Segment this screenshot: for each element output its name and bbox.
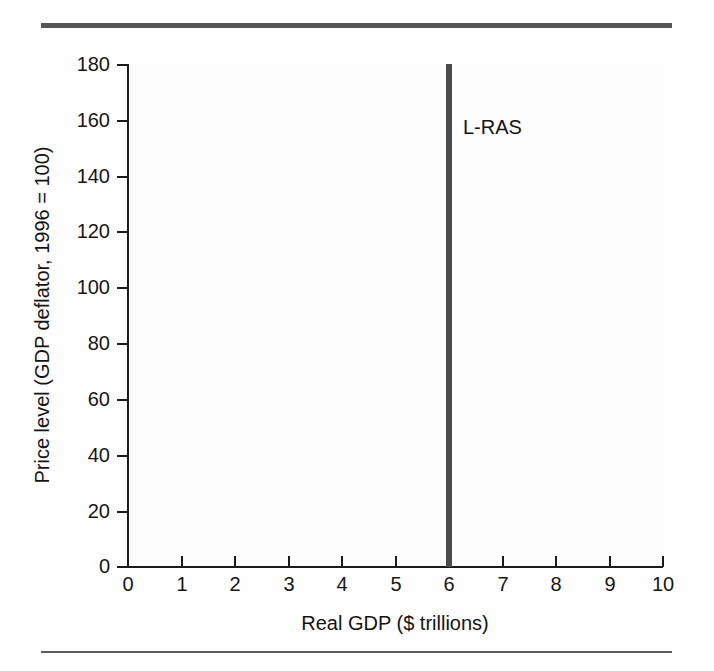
- y-axis-tick-180: [117, 64, 128, 66]
- lras-label: L-RAS: [463, 116, 522, 139]
- x-axis-tick-2: [234, 556, 236, 567]
- x-axis-tick-10: [662, 556, 664, 567]
- x-axis-label-1: 1: [176, 573, 187, 596]
- x-axis-label-0: 0: [122, 573, 133, 596]
- x-axis-label-5: 5: [390, 573, 401, 596]
- y-axis-label-140: 140: [77, 165, 110, 188]
- chart-figure: 180 160 140 120 100 80 60 40 20 0 0 1 2 …: [0, 0, 714, 671]
- y-axis-label-80: 80: [88, 332, 110, 355]
- x-axis-tick-1: [181, 556, 183, 567]
- y-axis-label-120: 120: [77, 220, 110, 243]
- y-axis-tick-140: [117, 176, 128, 178]
- y-axis-line: [127, 64, 129, 568]
- y-axis-tick-120: [117, 231, 128, 233]
- x-axis-label-10: 10: [652, 573, 674, 596]
- x-axis-tick-0: [127, 556, 129, 567]
- lras-curve: [446, 64, 452, 567]
- y-axis-label-40: 40: [88, 444, 110, 467]
- y-axis-tick-80: [117, 343, 128, 345]
- x-axis-label-4: 4: [336, 573, 347, 596]
- divider-bottom-rule: [41, 651, 672, 653]
- y-axis-label-60: 60: [88, 388, 110, 411]
- y-axis-label-100: 100: [77, 276, 110, 299]
- x-axis-tick-7: [502, 556, 504, 567]
- x-axis-tick-4: [341, 556, 343, 567]
- y-axis-label-20: 20: [88, 500, 110, 523]
- x-axis-label-9: 9: [604, 573, 615, 596]
- x-axis-title: Real GDP ($ trillions): [301, 612, 488, 635]
- y-axis-tick-40: [117, 455, 128, 457]
- y-axis-tick-20: [117, 511, 128, 513]
- y-axis-label-180: 180: [77, 53, 110, 76]
- y-axis-label-160: 160: [77, 109, 110, 132]
- x-axis-tick-3: [288, 556, 290, 567]
- y-axis-tick-100: [117, 287, 128, 289]
- x-axis-label-8: 8: [550, 573, 561, 596]
- x-axis-tick-8: [555, 556, 557, 567]
- divider-top-rule: [41, 23, 672, 28]
- x-axis-tick-9: [609, 556, 611, 567]
- y-axis-title: Price level (GDP deflator, 1996 = 100): [31, 146, 54, 483]
- y-axis-tick-60: [117, 399, 128, 401]
- x-axis-tick-5: [395, 556, 397, 567]
- plot-area: [128, 64, 662, 567]
- x-axis-label-2: 2: [229, 573, 240, 596]
- x-axis-label-7: 7: [497, 573, 508, 596]
- x-axis-label-6: 6: [443, 573, 454, 596]
- y-axis-tick-160: [117, 120, 128, 122]
- x-axis-label-3: 3: [283, 573, 294, 596]
- y-axis-label-0: 0: [99, 555, 110, 578]
